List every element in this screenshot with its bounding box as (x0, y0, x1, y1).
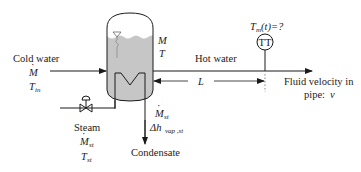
svg-text:·: · (157, 100, 161, 111)
svg-text:pipe:: pipe: (304, 89, 325, 100)
svg-text:vap ,st: vap ,st (165, 127, 184, 135)
velocity-label-line2: pipe: v (304, 89, 335, 100)
condensate-label: Condensate (131, 147, 180, 158)
svg-text:·: · (82, 128, 86, 139)
cold-water-temp-label: T in (29, 81, 41, 94)
hot-water-label: Hot water (195, 53, 237, 64)
distance-label: L (197, 76, 204, 87)
steam-temp-label: T st (81, 151, 93, 164)
steam-valve-icon (80, 96, 92, 112)
cold-water-label: Cold water (13, 53, 60, 64)
tank-liquid (100, 36, 160, 111)
tank-temperature-label: T (159, 48, 166, 59)
tank-mass-label: M (157, 35, 168, 46)
svg-text:st: st (164, 113, 170, 121)
heated-tank-diagram: TT M T Cold water M · T in Hot water L T… (0, 0, 361, 172)
sensor-tag: TT (259, 37, 272, 48)
cold-water-flow-dot: · (31, 59, 35, 70)
velocity-label-line1: Fluid velocity in (284, 76, 354, 87)
svg-text:(t)=?: (t)=? (261, 21, 284, 33)
svg-text:v: v (330, 89, 335, 100)
svg-text:in: in (35, 86, 41, 94)
svg-text:Δh: Δh (149, 122, 161, 133)
svg-text:st: st (87, 156, 93, 164)
svg-text:st: st (89, 141, 95, 149)
condensate-enthalpy-label: Δh vap ,st (149, 122, 184, 135)
condensate-flow-label: M · st (154, 100, 170, 121)
steam-label: Steam (74, 122, 100, 133)
sensor-measurement-label: T m (t)=? (250, 21, 284, 34)
